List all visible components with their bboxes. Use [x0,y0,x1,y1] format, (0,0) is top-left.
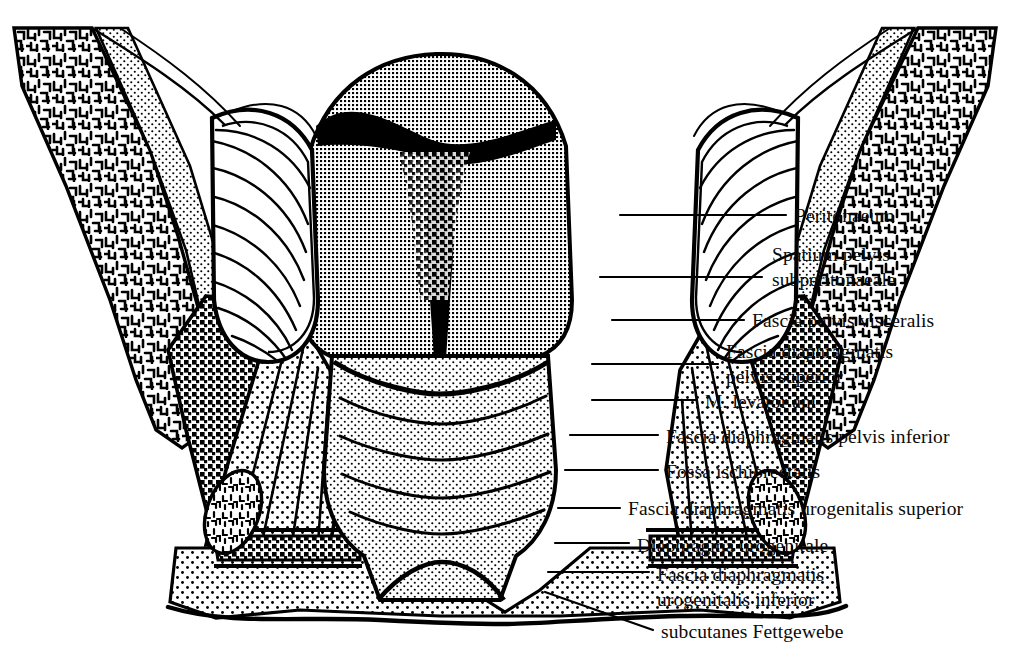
label-fossa-ischiorectalis: Fossa ischiorectalis [666,461,820,482]
label-fascia-diaphragmatis-pelvis-inferior: Fascia diaphragmatis pelvis inferior [666,426,950,447]
pelvis-cross-section-illustration: Peritonaeum Spatium pelvis subperitonaea… [0,0,1010,671]
label-musculus-levator-ani: M. levator ani [705,391,817,412]
label-fascia-pelvis-visceralis: Fascia pelvis visceralis [752,310,934,331]
label-fascia-diaphragmatis-urogenitalis-superior: Fascia diaphragmatis urogenitalis superi… [628,498,963,519]
label-diaphragma-urogenitale: Diaphragma urogenitale [637,535,828,556]
label-peritonaeum: Peritonaeum [795,205,895,226]
anatomical-figure: Peritonaeum Spatium pelvis subperitonaea… [0,0,1010,671]
label-subcutanes-fettgewebe: subcutanes Fettgewebe [661,621,843,642]
